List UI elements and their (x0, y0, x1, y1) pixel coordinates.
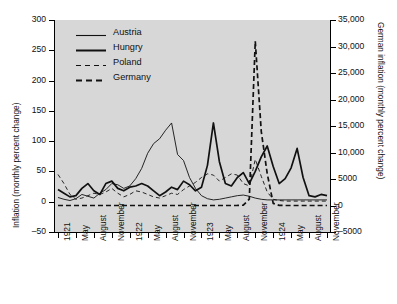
y-tick-right (331, 73, 336, 74)
y-tick-label-right: 5000 (338, 173, 357, 183)
y-tick-label-right: 25,000 (338, 67, 364, 77)
x-tick-label: August (313, 215, 323, 241)
x-tick-label: May (295, 225, 305, 241)
y-tick-left (49, 20, 54, 21)
x-tick-label: 1923 (205, 222, 215, 241)
x-tick-label: August (241, 215, 251, 241)
x-tick-label: May (80, 225, 90, 241)
y-tick-left (49, 50, 54, 51)
series-line-hungry (58, 123, 327, 197)
y-tick-label-left: 100 (12, 135, 46, 145)
y-axis-title-right: German inflation (monthly percent change… (376, 22, 386, 179)
legend-swatch-germany (76, 79, 106, 82)
y-tick-label-right: 15,000 (338, 120, 364, 130)
y-tick-label-left: 150 (12, 105, 46, 115)
y-tick-label-left: 250 (12, 44, 46, 54)
x-tick (166, 233, 167, 238)
y-tick-label-left: 50 (12, 165, 46, 175)
x-tick-label: November (116, 202, 126, 241)
y-tick-right (331, 47, 336, 48)
x-tick (94, 233, 95, 238)
x-tick (201, 233, 202, 238)
x-tick (130, 233, 131, 238)
y-tick-label-left: 0 (12, 196, 46, 206)
y-tick-left (49, 81, 54, 82)
y-tick-right (331, 153, 336, 154)
y-tick-right (331, 20, 336, 21)
x-tick-label: 1924 (277, 222, 287, 241)
x-tick (148, 233, 149, 238)
legend-label: Germany (113, 72, 151, 82)
y-tick-left (49, 232, 54, 233)
x-tick-label: August (98, 215, 108, 241)
y-tick-label-left: 300 (12, 14, 46, 24)
x-tick-label: November (259, 202, 269, 241)
legend-label: Austria (113, 27, 142, 37)
x-tick (76, 233, 77, 238)
y-tick-label-right: –5000 (338, 226, 362, 236)
legend-swatch-austria (76, 34, 106, 37)
x-tick (184, 233, 185, 238)
y-tick-right (331, 179, 336, 180)
chart-figure: Inflation (monthly percent change) Germa… (0, 0, 397, 304)
y-tick-left (49, 141, 54, 142)
x-tick (58, 233, 59, 238)
y-tick-label-left: –50 (12, 226, 46, 236)
x-tick (291, 233, 292, 238)
y-tick-label-right: 35,000 (338, 14, 364, 24)
x-tick (255, 233, 256, 238)
y-tick-label-left: 200 (12, 75, 46, 85)
x-tick-label: May (152, 225, 162, 241)
legend-label: Hungry (113, 42, 143, 52)
y-tick-left (49, 111, 54, 112)
legend-label: Poland (113, 57, 142, 67)
y-tick-left (49, 202, 54, 203)
axis-line-left (54, 20, 55, 233)
y-tick-label-right: 30,000 (338, 41, 364, 51)
x-tick (309, 233, 310, 238)
x-tick-label: August (170, 215, 180, 241)
y-tick-left (49, 171, 54, 172)
y-tick-label-right: 10,000 (338, 147, 364, 157)
x-tick-label: 1921 (62, 222, 72, 241)
legend-swatch-hungry (76, 49, 106, 52)
x-tick-label: 1922 (134, 222, 144, 241)
x-tick-label: November (188, 202, 198, 241)
x-tick (273, 233, 274, 238)
x-tick (237, 233, 238, 238)
x-tick (112, 233, 113, 238)
legend-swatch-poland (76, 64, 106, 67)
y-tick-right (331, 100, 336, 101)
x-tick-label: May (223, 225, 233, 241)
x-tick (219, 233, 220, 238)
y-tick-label-right: 20,000 (338, 94, 364, 104)
x-tick-label: November (331, 202, 341, 241)
x-tick (327, 233, 328, 238)
y-tick-right (331, 126, 336, 127)
